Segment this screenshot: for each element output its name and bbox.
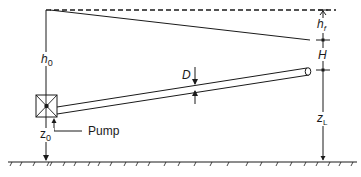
pump-pipeline-diagram: h0 hf H D zL z0 Pump <box>0 0 361 177</box>
pump-leader-arrow <box>52 118 57 123</box>
label-pump: Pump <box>88 124 120 138</box>
pump-icon <box>36 95 57 117</box>
arrow-ground-right <box>321 156 326 161</box>
tick-mark-hgl <box>322 39 325 42</box>
label-D: D <box>182 68 191 82</box>
tick-mark-pipe <box>322 69 325 72</box>
pump-leader-line <box>54 121 82 131</box>
pipe-outlet <box>305 68 311 76</box>
label-H: H <box>318 48 327 62</box>
ground-hatching <box>10 162 353 166</box>
hydraulic-grade-line <box>50 10 310 40</box>
